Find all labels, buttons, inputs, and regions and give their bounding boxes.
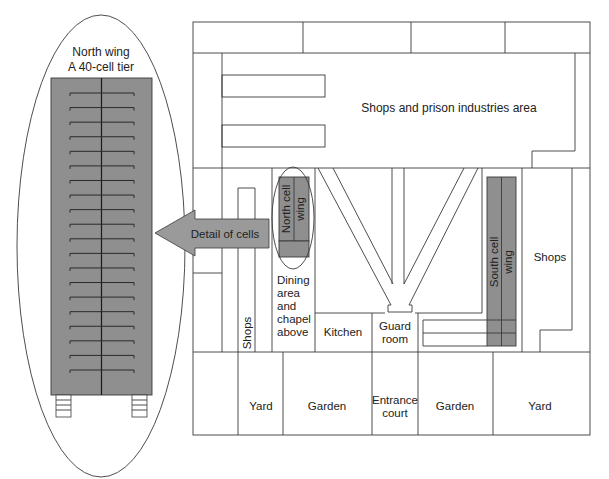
label-dining-5: above <box>277 326 308 338</box>
detail-arrow: Detail of cells <box>155 210 269 256</box>
label-kitchen: Kitchen <box>324 326 362 338</box>
prison-floor-plan-diagram: North wing A 40-cell tier <box>0 0 609 479</box>
label-guard-2: room <box>382 333 408 345</box>
label-yard-left: Yard <box>249 400 272 412</box>
label-north-wing-2: wing <box>294 197 306 222</box>
label-entrance-1: Entrance <box>372 394 418 406</box>
detail-title-line1: North wing <box>72 45 129 59</box>
label-shops-left: Shops <box>241 316 253 349</box>
label-dining-1: Dining <box>277 274 310 286</box>
stairs-left-icon <box>56 395 71 417</box>
label-garden-left: Garden <box>308 400 346 412</box>
arrow-label: Detail of cells <box>191 228 260 240</box>
label-dining-2: area <box>277 287 301 299</box>
label-shops-right: Shops <box>534 251 567 263</box>
label-north-wing-1: North cell <box>280 185 292 234</box>
label-shops-industries: Shops and prison industries area <box>361 101 537 115</box>
label-south-wing-2: wing <box>502 250 514 275</box>
label-guard-1: Guard <box>379 320 411 332</box>
stairs-right-icon <box>132 395 147 417</box>
label-yard-right: Yard <box>528 400 551 412</box>
label-garden-right: Garden <box>436 400 474 412</box>
detail-title-line2: A 40-cell tier <box>68 60 134 74</box>
north-wing-detail: North wing A 40-cell tier <box>17 15 185 477</box>
label-dining-3: and <box>277 300 296 312</box>
label-dining-4: chapel <box>277 313 311 325</box>
label-south-wing-1: South cell <box>488 237 500 288</box>
label-entrance-2: court <box>382 407 408 419</box>
